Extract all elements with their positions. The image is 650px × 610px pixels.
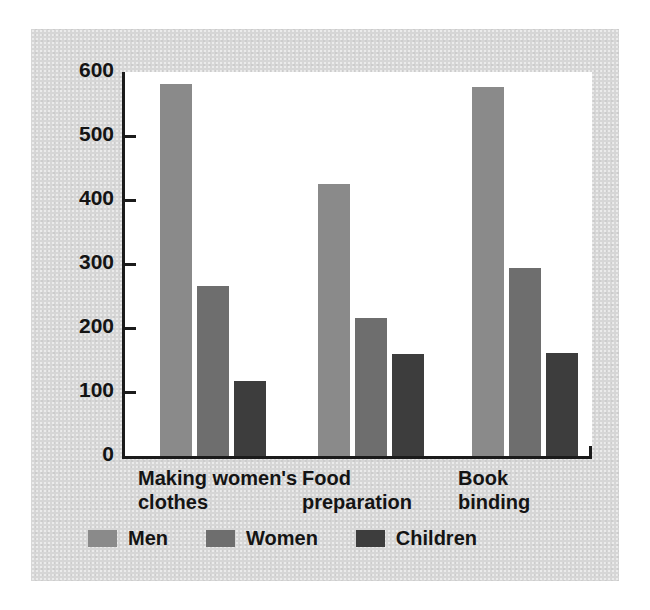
bar <box>318 184 350 456</box>
legend-swatch <box>356 530 385 547</box>
y-axis-tick-label: 100 <box>58 378 114 402</box>
chart-figure: Annual earnings (in dollars) 01002003004… <box>0 0 650 610</box>
legend-label: Children <box>396 527 477 550</box>
y-axis-tick-label: 0 <box>58 442 114 466</box>
y-axis-tick <box>125 391 136 394</box>
bar <box>355 318 387 456</box>
x-axis-line <box>122 456 592 459</box>
legend-label: Men <box>128 527 168 550</box>
x-axis-category-label: Making women's clothes <box>138 466 297 514</box>
legend-item: Men <box>88 527 168 550</box>
y-axis-tick <box>125 199 136 202</box>
x-axis-category-label: Food preparation <box>302 466 412 514</box>
legend-swatch <box>88 530 117 547</box>
bar <box>197 286 229 456</box>
y-axis-tick <box>125 327 136 330</box>
bar <box>392 354 424 456</box>
legend-swatch <box>206 530 235 547</box>
y-axis-tick-label: 400 <box>58 186 114 210</box>
y-axis-tick-label: 300 <box>58 250 114 274</box>
plot-area <box>122 72 592 459</box>
bar <box>472 87 504 456</box>
legend-item: Women <box>206 527 318 550</box>
legend-label: Women <box>246 527 318 550</box>
y-axis-tick <box>125 263 136 266</box>
bar <box>234 381 266 456</box>
y-axis-tick <box>125 135 136 138</box>
x-axis-category-label: Book binding <box>458 466 530 514</box>
chart-legend: MenWomenChildren <box>88 527 477 550</box>
bar <box>160 84 192 456</box>
x-axis-right-stub <box>589 446 592 459</box>
bar <box>509 268 541 456</box>
bar <box>546 353 578 456</box>
y-axis-tick-label: 200 <box>58 314 114 338</box>
legend-item: Children <box>356 527 477 550</box>
y-axis-tick-label: 500 <box>58 122 114 146</box>
y-axis-tick-label: 600 <box>58 58 114 82</box>
y-axis-line <box>122 72 125 459</box>
